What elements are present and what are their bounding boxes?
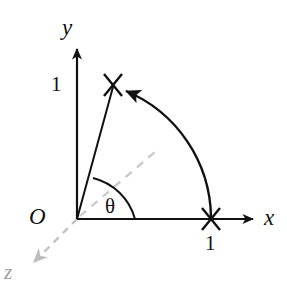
z-axis-label: z [4, 262, 12, 283]
origin-label: O [29, 205, 46, 228]
y-axis-tick-label: 1 [51, 74, 62, 95]
diagram-svg [0, 0, 287, 289]
y-axis-label: y [62, 16, 72, 39]
angle-bisector-ray [80, 151, 156, 216]
rotated-point-marker [104, 74, 122, 96]
figure-canvas: y x z O 1 1 θ [0, 0, 287, 289]
rotation-arc [126, 91, 211, 217]
x-axis-tick-label: 1 [205, 233, 216, 254]
angle-label: θ [105, 196, 115, 217]
x-axis-label: x [264, 206, 274, 229]
